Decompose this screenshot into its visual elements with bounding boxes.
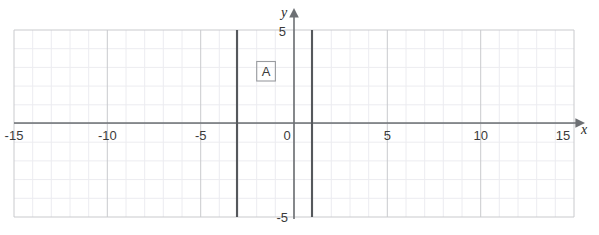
x-axis-label: x [580,122,588,137]
coordinate-grid-figure: A -15 -10 -5 0 5 10 15 5 -5 y x [0,0,599,235]
annotation-a-label: A [262,64,271,79]
x-tick-label: -5 [195,128,207,143]
x-tick-label: 5 [384,128,391,143]
y-axis-label: y [279,5,288,20]
y-tick-label: -5 [276,210,288,225]
x-tick-label: 15 [556,128,570,143]
x-tick-labels: -15 -10 -5 0 5 10 15 [5,128,571,143]
y-tick-label: 5 [279,24,286,39]
graph-svg: A -15 -10 -5 0 5 10 15 5 -5 y x [0,0,599,235]
x-tick-label: -10 [98,128,117,143]
x-tick-label: -15 [5,128,24,143]
axis-names: y x [279,5,588,137]
x-tick-label: 0 [283,128,290,143]
y-tick-labels: 5 -5 [276,24,288,225]
annotation-a: A [257,62,276,82]
axes [14,16,577,219]
x-tick-label: 10 [473,128,487,143]
